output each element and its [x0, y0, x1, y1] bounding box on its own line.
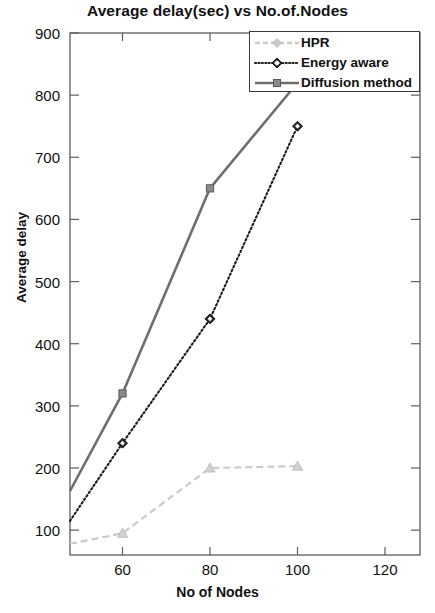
- y-tick-label: 200: [4, 460, 60, 477]
- legend-swatch-hpr: [254, 36, 300, 50]
- legend-label: HPR: [300, 35, 330, 50]
- series-diffusion-method: [70, 79, 301, 491]
- legend-swatch-diffusion-method: [254, 76, 300, 90]
- legend-label: Energy aware: [300, 55, 389, 70]
- y-tick-label: 300: [4, 397, 60, 414]
- y-tick-label: 600: [4, 211, 60, 228]
- y-tick-label: 700: [4, 149, 60, 166]
- series-energy-aware: [70, 121, 303, 521]
- y-tick-label: 100: [4, 522, 60, 539]
- y-tick-label: 900: [4, 25, 60, 42]
- y-tick-label: 800: [4, 87, 60, 104]
- x-tick-label: 120: [355, 561, 415, 578]
- y-tick-label: 500: [4, 273, 60, 290]
- x-tick-label: 60: [93, 561, 153, 578]
- legend-item-hpr: HPR: [254, 33, 330, 52]
- legend-item-diffusion-method: Diffusion method: [254, 73, 412, 92]
- series-hpr: [70, 461, 303, 544]
- legend-swatch-energy-aware: [254, 56, 300, 70]
- series-layer: [70, 79, 303, 544]
- chart-legend: HPR Energy aware Diffusion method: [249, 31, 420, 92]
- legend-item-energy-aware: Energy aware: [254, 53, 389, 72]
- axes-layer: [70, 33, 420, 555]
- y-tick-label: 400: [4, 335, 60, 352]
- chart-figure: Average delay(sec) vs No.of.Nodes Averag…: [0, 0, 435, 613]
- legend-label: Diffusion method: [300, 75, 412, 90]
- x-tick-label: 100: [268, 561, 328, 578]
- x-tick-label: 80: [180, 561, 240, 578]
